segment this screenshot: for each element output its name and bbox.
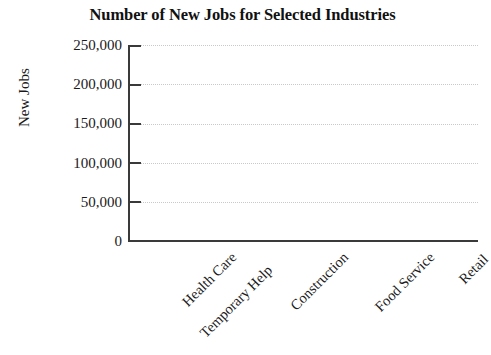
y-tick-label-100000: 100,000 [2, 155, 122, 172]
y-tick-mark-100000 [130, 162, 141, 164]
y-tick-label-50000: 50,000 [2, 194, 122, 211]
gridline-100000 [130, 163, 478, 165]
gridline-50000 [130, 202, 478, 204]
x-axis-line [128, 240, 478, 242]
y-tick-label-250000: 250,000 [2, 37, 122, 54]
y-tick-mark-150000 [130, 123, 141, 125]
y-tick-mark-50000 [130, 201, 141, 203]
y-tick-label-200000: 200,000 [2, 76, 122, 93]
x-axis-tick-labels: Health Care Temporary Help Construction … [128, 245, 491, 355]
x-tick-label-construction: Construction [269, 249, 352, 332]
gridline-200000 [130, 84, 478, 86]
x-tick-label-temporary-help: Temporary Help [179, 262, 276, 355]
gridline-250000 [130, 45, 478, 47]
gridline-150000 [130, 124, 478, 126]
y-axis-line [128, 45, 130, 242]
bar-chart-figure: Number of New Jobs for Selected Industri… [0, 0, 491, 355]
y-tick-label-0: 0 [2, 233, 122, 250]
y-tick-mark-250000 [130, 45, 141, 47]
y-tick-label-150000: 150,000 [2, 115, 122, 132]
chart-title: Number of New Jobs for Selected Industri… [0, 5, 491, 25]
x-tick-label-food-service: Food Service [355, 249, 438, 332]
y-tick-mark-200000 [130, 84, 141, 86]
plot-area [128, 45, 478, 242]
y-axis-tick-labels: 250,000 200,000 150,000 100,000 50,000 0 [0, 45, 122, 242]
